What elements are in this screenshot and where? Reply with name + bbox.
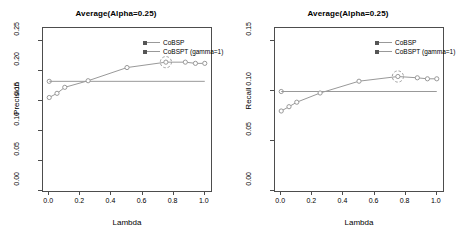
x-tick-mark [79, 191, 80, 195]
legend-label-cobsp: CoBSP [395, 38, 416, 47]
x-tick-label: 0.8 [390, 197, 420, 204]
series-cobsp [47, 79, 205, 83]
y-tick-mark [38, 70, 42, 71]
y-tick-mark [270, 140, 274, 141]
precision-chart-panel: Average(Alpha=0.25) 0.000.050.100.150.20… [0, 0, 232, 238]
x-tick-label: 0.0 [33, 197, 63, 204]
series-cobspt-gamma-1- [279, 74, 439, 113]
legend-marker-cobsp [143, 39, 160, 46]
legend-label-cobspt: CoBSPT (gamma=1) [163, 47, 223, 56]
x-axis-title-precision: Lambda [42, 218, 212, 227]
x-tick-label: 0.6 [359, 197, 389, 204]
y-tick-mark [38, 160, 42, 161]
y-axis-title-recall: Recall [244, 69, 253, 129]
y-tick-mark [270, 40, 274, 41]
y-tick-label: 0.00 [13, 172, 20, 205]
figure-root: Average(Alpha=0.25) 0.000.050.100.150.20… [0, 0, 464, 238]
series-cobspt-gamma-1- [47, 60, 207, 100]
legend-label-cobspt: CoBSPT (gamma=1) [395, 47, 455, 56]
x-tick-label: 0.8 [158, 197, 188, 204]
x-tick-label: 0.0 [265, 197, 295, 204]
series-cobsp [279, 89, 437, 93]
x-tick-label: 0.4 [327, 197, 357, 204]
x-tick-mark [311, 191, 312, 195]
y-tick-label: 0.25 [13, 22, 20, 55]
legend-item-cobsp: CoBSP [143, 38, 223, 47]
legend-marker-cobspt [375, 48, 392, 55]
legend-marker-cobsp [375, 39, 392, 46]
recall-chart-panel: Average(Alpha=0.25) 0.000.050.100.150.00… [232, 0, 464, 238]
x-tick-label: 1.0 [421, 197, 451, 204]
x-tick-mark [280, 191, 281, 195]
x-tick-label: 0.2 [296, 197, 326, 204]
legend-item-cobspt: CoBSPT (gamma=1) [375, 47, 455, 56]
y-tick-label: 0.00 [245, 172, 252, 205]
legend-precision: CoBSP CoBSPT (gamma=1) [143, 38, 223, 56]
x-tick-mark [173, 191, 174, 195]
x-tick-label: 1.0 [189, 197, 219, 204]
y-tick-mark [270, 90, 274, 91]
x-tick-mark [204, 191, 205, 195]
legend-recall: CoBSP CoBSPT (gamma=1) [375, 38, 455, 56]
legend-item-cobsp: CoBSP [375, 38, 455, 47]
x-tick-label: 0.6 [127, 197, 157, 204]
chart-title: Average(Alpha=0.25) [232, 9, 464, 18]
x-tick-mark [374, 191, 375, 195]
x-tick-label: 0.2 [64, 197, 94, 204]
y-tick-mark [270, 190, 274, 191]
x-tick-mark [436, 191, 437, 195]
x-tick-mark [405, 191, 406, 195]
legend-marker-cobspt [143, 48, 160, 55]
y-axis-title-precision: Precision [12, 69, 21, 129]
legend-label-cobsp: CoBSP [163, 38, 184, 47]
y-tick-mark [38, 190, 42, 191]
x-tick-mark [142, 191, 143, 195]
chart-title: Average(Alpha=0.25) [0, 9, 232, 18]
x-tick-mark [48, 191, 49, 195]
legend-item-cobspt: CoBSPT (gamma=1) [143, 47, 223, 56]
x-tick-label: 0.4 [95, 197, 125, 204]
y-tick-mark [38, 130, 42, 131]
y-tick-label: 0.15 [245, 22, 252, 55]
y-tick-label: 0.05 [13, 142, 20, 175]
x-axis-title-recall: Lambda [274, 218, 444, 227]
y-tick-mark [38, 40, 42, 41]
x-tick-mark [110, 191, 111, 195]
y-tick-mark [38, 100, 42, 101]
x-tick-mark [342, 191, 343, 195]
